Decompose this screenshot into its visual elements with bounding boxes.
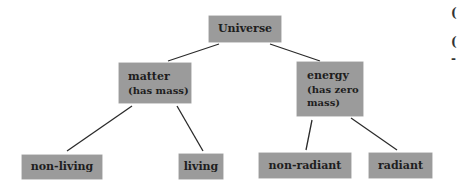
node-non-radiant-label: non-radiant (269, 159, 342, 173)
edge-energy-nonradiant (306, 120, 312, 150)
cropped-text-2: ( (451, 35, 457, 49)
edge-matter-nonliving (67, 106, 132, 151)
cropped-text-1: ( (451, 6, 457, 20)
node-energy-label: energy (307, 69, 349, 82)
node-radiant-label: radiant (378, 159, 423, 173)
edge-universe-energy (270, 44, 320, 61)
node-matter-label: matter (128, 70, 170, 83)
node-universe-label: Universe (218, 22, 272, 36)
node-non-living: non-living (22, 155, 102, 179)
edge-energy-radiant (351, 118, 397, 150)
node-non-living-label: non-living (31, 160, 94, 174)
edge-matter-living (177, 106, 203, 151)
node-energy-sublabel-1: (has zero (307, 83, 363, 96)
node-energy: energy (has zero mass) (297, 62, 363, 116)
node-energy-sublabel-2: mass) (307, 96, 363, 109)
node-non-radiant: non-radiant (259, 153, 351, 178)
cropped-text-3: - (451, 52, 456, 66)
edge-universe-matter (168, 44, 219, 61)
node-universe: Universe (209, 16, 281, 42)
node-living-label: living (184, 160, 219, 174)
node-living: living (179, 154, 223, 179)
node-matter-sublabel: (has mass) (128, 84, 191, 97)
node-matter: matter (has mass) (119, 63, 191, 103)
node-radiant: radiant (369, 153, 432, 178)
